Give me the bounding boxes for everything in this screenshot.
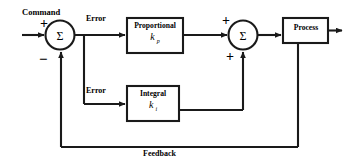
integral-block-title: Integral <box>127 90 179 98</box>
process-block-title: Process <box>283 24 329 32</box>
sum2-plus-sign-bottom: + <box>226 50 234 64</box>
proportional-block-text: Proportional kp <box>127 22 183 44</box>
error-label-bottom: Error <box>86 87 106 95</box>
proportional-gain: kp <box>127 32 183 44</box>
error-label-top: Error <box>86 15 106 23</box>
proportional-gain-subscript: p <box>155 38 160 44</box>
integral-block-text: Integral ki <box>127 90 179 112</box>
block-diagram-canvas: Command Error Error Feedback + − + + Σ Σ… <box>0 0 346 166</box>
sigma-symbol-2: Σ <box>229 29 257 44</box>
sum2-plus-sign-top: + <box>222 14 230 28</box>
sum1-minus-sign: − <box>39 52 48 67</box>
process-block-text: Process <box>283 24 329 32</box>
sigma-symbol-1: Σ <box>46 29 74 44</box>
feedback-label: Feedback <box>143 150 176 158</box>
proportional-block-title: Proportional <box>127 22 183 30</box>
integral-gain: ki <box>127 100 179 112</box>
integral-gain-subscript: i <box>153 106 157 112</box>
